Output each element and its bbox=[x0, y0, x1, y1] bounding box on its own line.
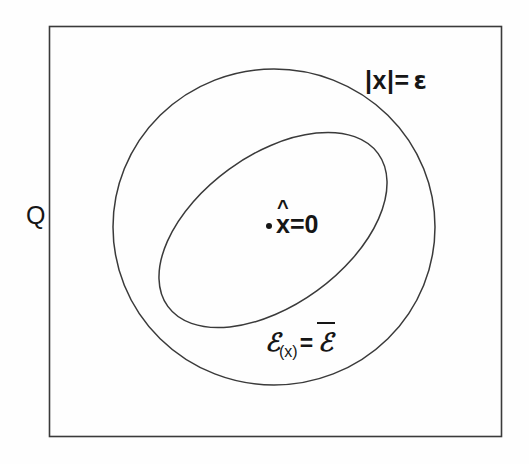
universe-label: Q bbox=[26, 203, 45, 228]
set-E-equals-sign: = bbox=[299, 332, 318, 355]
hat-accent-icon: ^ bbox=[276, 197, 290, 217]
origin-equals-zero: =0 bbox=[290, 212, 319, 237]
figure-canvas: Q |x|=ε ^ x =0 ℰ(x)= ℰ bbox=[0, 0, 529, 464]
origin-point-label: ^ x =0 bbox=[266, 212, 318, 237]
script-E-symbol: ℰ bbox=[265, 330, 280, 355]
set-E-subscript: (x) bbox=[279, 344, 298, 360]
set-E-label: ℰ(x)= ℰ bbox=[265, 328, 333, 355]
script-E-bar-group: ℰ bbox=[318, 328, 333, 355]
overbar-accent-icon bbox=[317, 322, 335, 324]
diagram-svg bbox=[0, 0, 529, 464]
origin-dot-marker bbox=[266, 223, 272, 229]
x-hat-group: ^ x bbox=[276, 212, 290, 237]
script-E-bar-symbol: ℰ bbox=[318, 328, 333, 357]
epsilon-ball-label: |x|=ε bbox=[365, 68, 427, 93]
epsilon-ball-label-lhs: |x|= bbox=[365, 66, 410, 94]
epsilon-symbol: ε bbox=[410, 67, 428, 95]
